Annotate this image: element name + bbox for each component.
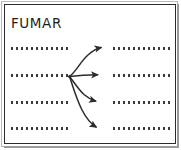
hub-node [68,75,71,78]
arrow-group [0,0,181,150]
arrow-2 [70,75,98,77]
diagram-screenshot: FUMAR [0,0,181,150]
arrow-4 [70,77,97,128]
arrow-1 [70,48,102,77]
